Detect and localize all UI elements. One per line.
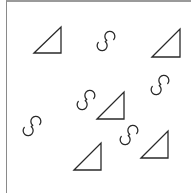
s-shape (95, 29, 117, 52)
triangle-shape (141, 131, 168, 158)
s-shape (21, 114, 43, 137)
s-shape (149, 73, 171, 96)
triangle-shape (74, 143, 101, 170)
s-shape (118, 123, 140, 146)
s-shape (75, 88, 97, 111)
triangle-shape (97, 92, 124, 119)
triangle-shape (152, 29, 180, 57)
triangle-shape (34, 27, 61, 53)
shapes-canvas (0, 0, 191, 193)
